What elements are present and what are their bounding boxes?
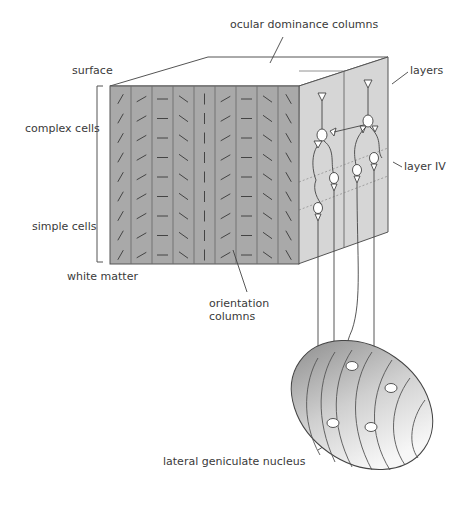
label-layers: layers (410, 64, 443, 77)
label-white-matter: white matter (67, 270, 138, 283)
label-orientation-columns-line2: columns (209, 310, 255, 323)
label-orientation-columns-line1: orientation (209, 297, 269, 310)
lateral-geniculate-nucleus-shape (266, 314, 457, 496)
label-layer-iv: layer IV (404, 160, 446, 173)
label-surface: surface (72, 64, 113, 77)
label-lateral-geniculate-nucleus: lateral geniculate nucleus (163, 455, 305, 468)
label-complex-cells: complex cells (25, 122, 100, 135)
label-simple-cells: simple cells (32, 220, 96, 233)
label-ocular-dominance-columns: ocular dominance columns (230, 18, 378, 31)
depth-bracket (97, 86, 103, 262)
visual-cortex-diagram (0, 0, 466, 508)
